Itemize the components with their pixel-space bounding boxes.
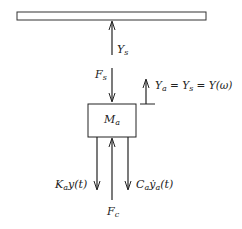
- fs-label: Fs: [95, 69, 107, 82]
- ys-label: Ys: [117, 44, 128, 57]
- ca-label: Caẏa(t): [136, 179, 173, 192]
- ya-equation-label: Ya = Ys = Y(ω): [155, 80, 232, 93]
- ground-bar: [17, 12, 206, 20]
- fc-label: Fc: [107, 206, 119, 219]
- mass-label: Ma: [104, 114, 120, 127]
- ka-label: Kay(t): [55, 179, 87, 192]
- diagram-canvas: [0, 0, 242, 229]
